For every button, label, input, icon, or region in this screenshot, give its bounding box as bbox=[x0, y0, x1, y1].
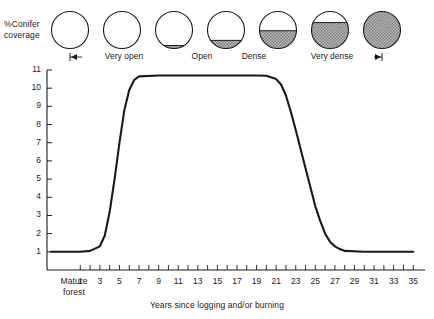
x-tick-label-13: 13 bbox=[189, 276, 207, 286]
bracket-label-1: Very open bbox=[82, 51, 166, 61]
x-tick-label-3: 3 bbox=[91, 276, 109, 286]
chart-plot-area bbox=[0, 0, 434, 319]
density-circle-4 bbox=[207, 12, 246, 78]
x-tick-label-29: 29 bbox=[345, 276, 363, 286]
y-tick-label-3: 3 bbox=[25, 209, 41, 219]
x-tick-label-5: 5 bbox=[110, 276, 128, 286]
bracket-label-3: Dense bbox=[212, 51, 296, 61]
y-tick-label-7: 7 bbox=[25, 137, 41, 147]
conifer-coverage-figure: %Conifer coverage Mature forest Years si… bbox=[0, 0, 434, 319]
coverage-curve bbox=[51, 75, 413, 251]
x-tick-label-11: 11 bbox=[169, 276, 187, 286]
bracket-label-4: Very dense bbox=[290, 51, 374, 61]
x-tick-label-15: 15 bbox=[208, 276, 226, 286]
x-tick-label-9: 9 bbox=[150, 276, 168, 286]
x-tick-label-33: 33 bbox=[385, 276, 403, 286]
density-legend-circles bbox=[52, 12, 402, 83]
y-tick-label-8: 8 bbox=[25, 119, 41, 129]
x-tick-label-25: 25 bbox=[306, 276, 324, 286]
density-circle-2 bbox=[104, 12, 141, 49]
y-tick-label-4: 4 bbox=[25, 191, 41, 201]
y-tick-label-10: 10 bbox=[25, 82, 41, 92]
density-circle-7 bbox=[363, 12, 402, 49]
x-tick-label-7: 7 bbox=[130, 276, 148, 286]
y-tick-label-5: 5 bbox=[25, 173, 41, 183]
density-circle-1 bbox=[52, 12, 89, 49]
x-tick-label-1: 1 bbox=[71, 276, 89, 286]
x-tick-label-31: 31 bbox=[365, 276, 383, 286]
x-tick-label-17: 17 bbox=[228, 276, 246, 286]
x-tick-label-27: 27 bbox=[326, 276, 344, 286]
y-tick-label-2: 2 bbox=[25, 228, 41, 238]
x-tick-label-23: 23 bbox=[287, 276, 305, 286]
density-circle-3 bbox=[155, 12, 194, 83]
coverage-curve-group bbox=[51, 75, 413, 251]
y-tick-label-11: 11 bbox=[25, 64, 41, 74]
y-tick-label-1: 1 bbox=[25, 246, 41, 256]
y-tick-label-9: 9 bbox=[25, 100, 41, 110]
y-tick-label-6: 6 bbox=[25, 155, 41, 165]
x-tick-label-21: 21 bbox=[267, 276, 285, 286]
x-tick-label-35: 35 bbox=[404, 276, 422, 286]
x-tick-label-19: 19 bbox=[248, 276, 266, 286]
